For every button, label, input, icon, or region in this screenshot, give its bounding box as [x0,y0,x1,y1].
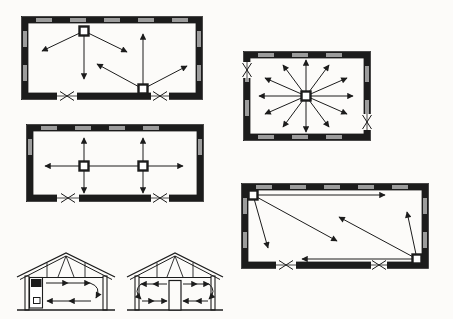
window-segment [245,100,249,116]
window-segment [256,185,272,189]
flow-arrow [253,195,337,241]
window-segment [197,65,201,81]
flow-arrow [339,217,417,259]
unit-heater-icon [139,162,148,171]
window-segment [23,31,27,47]
duct-column [169,281,181,311]
window-segment [365,66,369,82]
wall-column [103,276,107,310]
window-segment [423,198,427,214]
window-segment [392,185,408,189]
wall-left [27,125,33,201]
flow-arrow [143,66,187,89]
wall-inner-outline [248,190,422,262]
wall-bottom [242,262,428,268]
window-segment [423,232,427,248]
wall-left [22,17,28,99]
window-segment [143,126,159,130]
window-segment [138,18,154,22]
window-segment [28,139,32,155]
unit-heater-icon [413,255,422,264]
wall-bottom [27,195,203,201]
floor-plan-two-units-staggered [21,16,202,100]
window-segment [198,139,202,155]
unit-heater-grille-icon [31,279,42,287]
window-segment [243,198,247,214]
floor-plan-central-unit-radial [243,51,372,140]
unit-heater-icon [302,92,311,101]
window-segment [290,185,306,189]
window-segment [104,18,120,22]
floor-plan-corner-units-diagonal [241,183,428,269]
heating-ventilation-diagram-figure [0,0,453,319]
window-segment [70,18,86,22]
unit-heater-inlet [34,298,41,304]
window-segment [172,18,188,22]
window-segment [358,185,374,189]
wall-right [197,125,203,201]
flow-arrow [84,31,127,52]
roof-inner-line [20,256,112,280]
window-segment [75,126,91,130]
wall-inner-outline [33,131,197,195]
window-segment [292,53,308,57]
window-segment [23,65,27,81]
flow-arrow [42,31,84,51]
figure-svg [0,0,453,319]
wall-bottom [22,93,202,99]
wall-right [422,184,428,268]
window-segment [292,135,308,139]
airflow-curve [90,283,98,298]
floor-plan-two-units-inline [26,124,203,202]
wall-outer-outline [241,183,428,268]
wall-right [196,17,202,99]
window-segment [365,100,369,116]
unit-heater-icon [80,162,89,171]
window-segment [258,53,274,57]
window-segment [324,185,340,189]
wall-outer-outline [21,16,202,99]
wall-column [25,276,29,310]
roof-inner-line [130,256,220,280]
window-segment [197,31,201,47]
wall-outer-outline [26,124,203,201]
unit-heater-icon [249,191,258,200]
window-segment [36,18,52,22]
wall-left [242,184,248,268]
window-segment [326,53,342,57]
window-segment [243,232,247,248]
unit-heater-icon [139,85,148,94]
flow-arrow [253,195,268,248]
wall-inner-outline [28,23,196,93]
window-segment [258,135,274,139]
section-wall-mounted-unit [17,253,115,310]
flow-arrow [407,212,417,259]
window-segment [109,126,125,130]
window-segment [41,126,57,130]
unit-heater-icon [80,27,89,36]
flow-arrow [97,64,143,89]
window-segment [326,135,342,139]
section-central-duct [127,253,223,310]
